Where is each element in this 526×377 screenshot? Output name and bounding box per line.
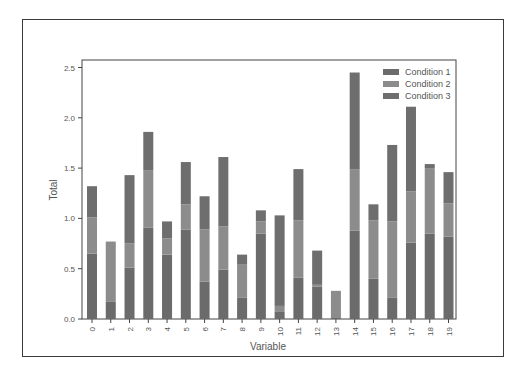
bar-segment-condition-2 xyxy=(387,221,397,297)
bar-stack-13 xyxy=(331,291,341,319)
bar-stack-12 xyxy=(312,251,322,319)
bar-segment-condition-3 xyxy=(87,186,97,217)
x-tick-label: 0 xyxy=(88,326,97,331)
bar-segment-condition-3 xyxy=(256,210,266,221)
y-tick-label: 2.0 xyxy=(64,114,76,123)
legend-swatch-condition-2 xyxy=(383,81,399,87)
bar-stack-14 xyxy=(350,73,360,319)
x-tick-label: 17 xyxy=(407,326,416,335)
bar-stack-8 xyxy=(237,255,247,319)
legend-swatch-condition-1 xyxy=(383,69,399,75)
bar-stack-17 xyxy=(406,107,416,319)
legend-label-condition-2: Condition 2 xyxy=(405,79,451,89)
bar-segment-condition-1 xyxy=(425,233,435,319)
bar-segment-condition-1 xyxy=(387,298,397,319)
bar-segment-condition-2 xyxy=(125,244,135,268)
y-tick-label: 0.0 xyxy=(64,315,76,324)
bar-segment-condition-1 xyxy=(406,243,416,319)
x-axis-title: Variable xyxy=(250,341,286,352)
bar-stack-19 xyxy=(444,172,454,319)
bar-segment-condition-2 xyxy=(143,170,153,227)
bar-segment-condition-1 xyxy=(106,302,116,319)
bar-stack-11 xyxy=(293,169,303,319)
bar-stack-4 xyxy=(162,221,172,319)
bar-segment-condition-2 xyxy=(368,220,378,278)
y-tick-label: 1.0 xyxy=(64,214,76,223)
bar-segment-condition-1 xyxy=(368,279,378,319)
x-tick-label: 18 xyxy=(426,326,435,335)
bar-stack-6 xyxy=(200,196,210,319)
legend: Condition 1Condition 2Condition 3 xyxy=(383,67,451,101)
bar-segment-condition-2 xyxy=(444,203,454,236)
bar-segment-condition-2 xyxy=(406,191,416,242)
y-tick-label: 1.5 xyxy=(64,164,76,173)
bar-segment-condition-2 xyxy=(350,169,360,230)
bar-stack-15 xyxy=(368,204,378,319)
x-axis-ticks: 012345678910111213141516171819 xyxy=(88,319,454,336)
bar-segment-condition-3 xyxy=(218,157,228,226)
bar-segment-condition-3 xyxy=(125,175,135,243)
bar-stack-10 xyxy=(275,215,285,319)
x-tick-label: 1 xyxy=(107,326,116,331)
bar-segment-condition-2 xyxy=(331,291,341,318)
bar-segment-condition-3 xyxy=(162,221,172,238)
bar-segment-condition-1 xyxy=(143,227,153,319)
bar-segment-condition-1 xyxy=(125,268,135,319)
bar-segment-condition-3 xyxy=(406,107,416,192)
legend-label-condition-3: Condition 3 xyxy=(405,91,451,101)
y-tick-label: 0.5 xyxy=(64,265,76,274)
x-tick-label: 19 xyxy=(445,326,454,335)
bar-segment-condition-1 xyxy=(87,254,97,319)
x-tick-label: 4 xyxy=(163,326,172,331)
bar-segment-condition-2 xyxy=(293,220,303,277)
bar-segment-condition-2 xyxy=(200,229,210,281)
x-tick-label: 10 xyxy=(276,326,285,335)
x-tick-label: 8 xyxy=(238,326,247,331)
x-tick-label: 14 xyxy=(351,326,360,335)
bar-segment-condition-1 xyxy=(444,237,454,319)
bar-segment-condition-2 xyxy=(162,239,172,255)
bar-segment-condition-3 xyxy=(181,162,191,204)
bar-segment-condition-1 xyxy=(331,318,341,319)
bar-segment-condition-1 xyxy=(181,229,191,319)
bar-segment-condition-3 xyxy=(350,73,360,170)
bar-segment-condition-3 xyxy=(200,196,210,229)
x-tick-label: 7 xyxy=(219,326,228,331)
bar-stack-1 xyxy=(106,242,116,319)
legend-label-condition-1: Condition 1 xyxy=(405,67,451,77)
bar-segment-condition-3 xyxy=(293,169,303,220)
bar-segment-condition-2 xyxy=(237,265,247,298)
bar-segment-condition-1 xyxy=(293,278,303,319)
bar-segment-condition-2 xyxy=(106,242,116,302)
bar-segment-condition-2 xyxy=(275,306,285,312)
bar-segment-condition-2 xyxy=(218,226,228,269)
bar-segment-condition-1 xyxy=(237,298,247,319)
y-axis-title: Total xyxy=(48,179,59,200)
bar-stack-3 xyxy=(143,132,153,319)
x-tick-label: 2 xyxy=(126,326,135,331)
x-tick-label: 6 xyxy=(201,326,210,331)
x-tick-label: 16 xyxy=(388,326,397,335)
bar-segment-condition-1 xyxy=(200,282,210,319)
bar-segment-condition-1 xyxy=(275,312,285,319)
bar-segment-condition-1 xyxy=(218,270,228,319)
y-tick-label: 2.5 xyxy=(64,64,76,73)
bar-segment-condition-3 xyxy=(275,215,285,306)
bar-stack-9 xyxy=(256,210,266,319)
bar-segment-condition-3 xyxy=(387,145,397,221)
bar-segment-condition-3 xyxy=(143,132,153,170)
x-tick-label: 13 xyxy=(332,326,341,335)
bar-stack-7 xyxy=(218,157,228,319)
bar-segment-condition-3 xyxy=(312,251,322,285)
y-axis-ticks: 0.00.51.01.52.02.5 xyxy=(64,64,82,325)
bar-stack-18 xyxy=(425,164,435,319)
bar-segment-condition-3 xyxy=(368,204,378,220)
bar-stack-5 xyxy=(181,162,191,319)
bar-segment-condition-3 xyxy=(425,164,435,168)
bar-segment-condition-1 xyxy=(312,287,322,319)
bar-stack-16 xyxy=(387,145,397,319)
bar-segment-condition-2 xyxy=(87,217,97,253)
stacked-bar-chart: 012345678910111213141516171819 0.00.51.0… xyxy=(0,0,526,377)
bar-segment-condition-3 xyxy=(444,172,454,203)
bar-segment-condition-2 xyxy=(256,221,266,233)
